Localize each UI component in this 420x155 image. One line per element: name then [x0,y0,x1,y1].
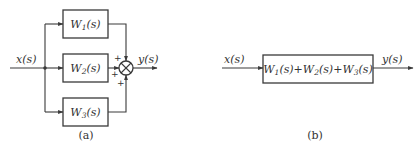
sign-plus-bottom: + [117,78,125,88]
output-label-b: y(s) [381,53,402,66]
caption-b: (b) [307,129,323,142]
block-w1: W1(s) [63,10,108,38]
block-w2-label: W2(s) [70,62,100,76]
block-w1-label: W1(s) [70,18,100,32]
block-w2: W2(s) [63,54,108,82]
caption-a: (a) [78,129,93,142]
diagram-b: x(s) W1(s)+W2(s)+W3(s) y(s) (b) [222,53,413,142]
summing-junction [119,61,133,75]
sign-plus-top: + [114,53,122,63]
block-w3: W3(s) [63,98,108,126]
block-equivalent: W1(s)+W2(s)+W3(s) [263,55,373,83]
output-label-a: y(s) [137,53,158,66]
input-label-b: x(s) [224,53,244,66]
diagram-a: x(s) W1(s) W2(s) W3(s) [10,10,158,142]
block-diagram-canvas: x(s) W1(s) W2(s) W3(s) [0,0,420,155]
block-w3-label: W3(s) [70,106,100,120]
input-label-a: x(s) [16,53,36,66]
